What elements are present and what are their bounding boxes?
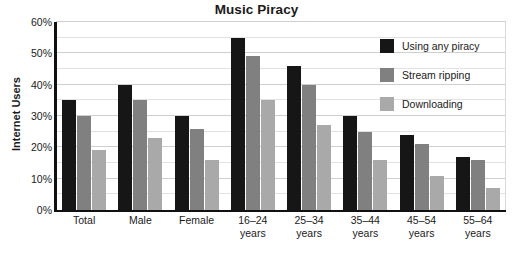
bar (471, 160, 485, 210)
bar (118, 85, 132, 210)
bar (175, 116, 189, 210)
chart-title: Music Piracy (0, 2, 513, 17)
x-tick-label-line: Total (73, 214, 95, 226)
bar (92, 150, 106, 210)
music-piracy-bar-chart: Music Piracy Internet Users Using any pi… (0, 0, 513, 257)
y-tick-label: 40% (12, 79, 52, 91)
legend-label: Using any piracy (402, 40, 480, 52)
x-tick-label-line: Male (129, 214, 152, 226)
x-axis-tick-labels: TotalMaleFemale16–24years25–34years35–44… (56, 214, 506, 256)
bar (231, 38, 245, 210)
bar (415, 144, 429, 210)
bar-group (60, 22, 112, 210)
bar (317, 125, 331, 210)
bar (62, 100, 76, 210)
x-tick-label-line: 55–64 (463, 214, 492, 226)
bar-group (116, 22, 168, 210)
x-tick-label-line: 35–44 (351, 214, 380, 226)
bar (190, 129, 204, 210)
bar-group (173, 22, 225, 210)
x-tick-label-line: 25–34 (295, 214, 324, 226)
plot-area: Using any piracyStream rippingDownloadin… (56, 22, 506, 210)
x-tick-label-line: 45–54 (407, 214, 436, 226)
legend-item[interactable]: Using any piracy (380, 34, 502, 57)
bar (302, 85, 316, 210)
x-tick-label-line: 16–24 (238, 214, 267, 226)
bar (77, 116, 91, 210)
y-tick-label: 60% (12, 16, 52, 28)
legend-label: Stream ripping (402, 69, 470, 81)
x-tick-label-line: years (443, 227, 513, 240)
y-tick-label: 0% (12, 204, 52, 216)
y-tick-label: 20% (12, 141, 52, 153)
bar-group (229, 22, 281, 210)
x-tick-label-line: Female (179, 214, 214, 226)
bar (400, 135, 414, 210)
legend-swatch-icon (380, 68, 394, 82)
chart-legend: Using any piracyStream rippingDownloadin… (380, 34, 502, 121)
legend-label: Downloading (402, 98, 463, 110)
x-tick-label: 55–64years (443, 214, 513, 239)
bar (205, 160, 219, 210)
bar (358, 132, 372, 210)
legend-item[interactable]: Stream ripping (380, 63, 502, 86)
bar (343, 116, 357, 210)
bar (133, 100, 147, 210)
bar (373, 160, 387, 210)
legend-swatch-icon (380, 97, 394, 111)
bar (246, 56, 260, 210)
y-tick-label: 10% (12, 173, 52, 185)
legend-item[interactable]: Downloading (380, 92, 502, 115)
y-tick-label: 30% (12, 110, 52, 122)
legend-swatch-icon (380, 39, 394, 53)
bar (430, 176, 444, 210)
y-tick-label: 50% (12, 47, 52, 59)
bar (148, 138, 162, 210)
bar (456, 157, 470, 210)
bar (486, 188, 500, 210)
bar (287, 66, 301, 210)
bar (261, 100, 275, 210)
bar-group (285, 22, 337, 210)
